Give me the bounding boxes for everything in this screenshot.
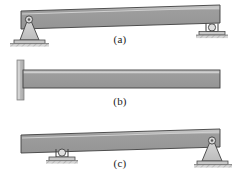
roller-circle bbox=[208, 24, 215, 31]
roller-support-right-a bbox=[196, 24, 228, 39]
beam-c bbox=[21, 129, 220, 153]
beam-support-figure bbox=[0, 0, 244, 182]
roller-base-plate bbox=[49, 157, 75, 160]
diagram-b bbox=[17, 60, 220, 100]
roller-circle bbox=[58, 149, 65, 156]
pin-base-plate bbox=[197, 161, 228, 164]
pin-base-plate bbox=[14, 40, 45, 43]
caption-a: (a) bbox=[90, 33, 150, 45]
beam-b bbox=[23, 70, 220, 88]
roller-base-plate bbox=[199, 32, 225, 35]
caption-b: (b) bbox=[90, 95, 150, 107]
pin-hinge-dot bbox=[28, 18, 31, 21]
caption-c: (c) bbox=[90, 157, 150, 169]
pin-hinge-dot bbox=[211, 139, 214, 142]
beam-a bbox=[21, 5, 220, 29]
